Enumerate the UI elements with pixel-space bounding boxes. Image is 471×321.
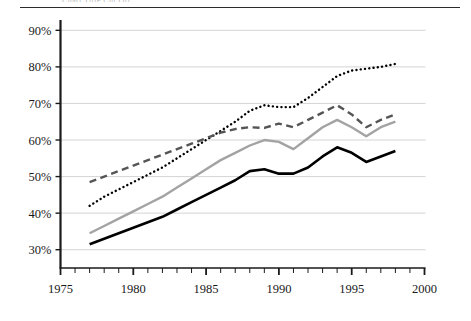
x-tick-label-1980: 1980: [121, 282, 146, 296]
horizontal-rule: [20, 7, 460, 8]
clipped-top-caption: Chart Title Cut Off: [62, 0, 322, 2]
x-tick-label-1995: 1995: [339, 282, 364, 296]
x-tick-label-1985: 1985: [194, 282, 219, 296]
y-tick-label-30%: 30%: [29, 243, 52, 257]
series-solid-black-series: [90, 147, 396, 244]
chart-figure: Chart Title Cut Off 30%40%50%60%70%80%90…: [0, 0, 471, 321]
y-tick-label-40%: 40%: [29, 207, 52, 221]
line-chart: 30%40%50%60%70%80%90%1975198019851990199…: [0, 0, 471, 321]
x-tick-label-2000: 2000: [412, 282, 437, 296]
y-tick-label-50%: 50%: [29, 170, 52, 184]
y-tick-label-70%: 70%: [29, 97, 52, 111]
x-tick-label-1990: 1990: [266, 282, 291, 296]
series-dotted-black-series: [90, 64, 396, 206]
y-tick-label-90%: 90%: [29, 24, 52, 38]
y-tick-label-80%: 80%: [29, 60, 52, 74]
x-tick-label-1975: 1975: [48, 282, 73, 296]
y-tick-label-60%: 60%: [29, 134, 52, 148]
